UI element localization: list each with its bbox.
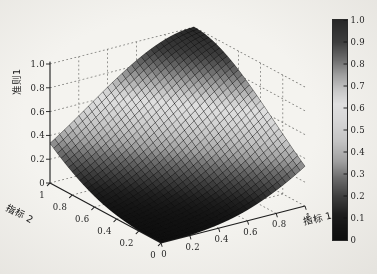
colorbar-tick-label: 0.1 xyxy=(351,213,365,223)
z-tick-label: 1.0 xyxy=(31,59,45,69)
x-tick-label: 0.6 xyxy=(243,227,257,237)
x-tick-label: 0.2 xyxy=(186,242,200,252)
y-tick-label: 0.6 xyxy=(75,214,89,224)
colorbar-tick-label: 0.7 xyxy=(351,81,365,91)
x-tick-label: 0.4 xyxy=(214,234,228,244)
x-tick-label: 0.8 xyxy=(272,219,286,229)
colorbar xyxy=(333,20,347,240)
colorbar-tick-label: 0.8 xyxy=(351,59,365,69)
z-tick-label: 0.8 xyxy=(31,83,45,93)
colorbar-tick-label: 0.9 xyxy=(351,37,365,47)
y-tick-label: 0.2 xyxy=(119,238,133,248)
y-tick-label: 0.4 xyxy=(97,226,111,236)
z-tick-label: 0.6 xyxy=(31,107,45,117)
x-tick-label: 0 xyxy=(161,249,167,259)
y-tick-label: 0.8 xyxy=(53,202,67,212)
colorbar-tick-label: 1.0 xyxy=(351,15,365,25)
y-tick-label: 1 xyxy=(39,190,45,200)
figure: 准则1 指标 2 指标 1 00.20.40.60.8100.20.40.60.… xyxy=(0,0,377,274)
z-axis-label: 准则1 xyxy=(9,69,23,95)
y-tick-label: 0 xyxy=(150,250,156,260)
colorbar-tick-label: 0.6 xyxy=(351,103,365,113)
colorbar-tick-label: 0 xyxy=(351,235,357,245)
colorbar-tick-label: 0.5 xyxy=(351,125,365,135)
colorbar-tick-label: 0.2 xyxy=(351,191,365,201)
x-tick-label: 1 xyxy=(305,212,311,222)
z-tick-label: 0 xyxy=(39,178,45,188)
colorbar-tick-label: 0.3 xyxy=(351,169,365,179)
z-tick-label: 0.2 xyxy=(31,154,45,164)
surface-plot xyxy=(0,0,377,274)
colorbar-tick-label: 0.4 xyxy=(351,147,365,157)
z-tick-label: 0.4 xyxy=(31,130,45,140)
